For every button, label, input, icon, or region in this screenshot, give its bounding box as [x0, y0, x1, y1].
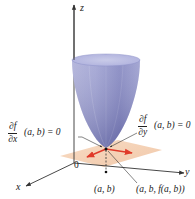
partial-y-fraction: ∂f ∂y [138, 115, 147, 137]
point-ab-label: (a, b) [94, 185, 115, 195]
point-abf-label: (a, b, f(a, b)) [136, 185, 185, 195]
partial-x-fraction: ∂f ∂x [8, 122, 17, 144]
y-axis [74, 163, 184, 173]
point-ab-dot [105, 171, 108, 174]
partial-y-denominator: ∂y [138, 127, 147, 138]
origin-label: 0 [74, 161, 79, 171]
y-axis-label: y [185, 167, 189, 177]
partial-x-equation: (a, b) = 0 [24, 128, 61, 138]
x-axis-label: x [16, 182, 20, 192]
partial-y-equation: (a, b) = 0 [154, 121, 191, 131]
x-axis [26, 163, 74, 186]
partial-y-numerator: ∂f [138, 115, 147, 127]
partial-x-numerator: ∂f [8, 122, 17, 134]
paraboloid-rim [72, 54, 140, 66]
paraboloid-diagram [0, 0, 195, 199]
z-axis-label: z [80, 3, 84, 13]
partial-x-denominator: ∂x [8, 134, 17, 145]
